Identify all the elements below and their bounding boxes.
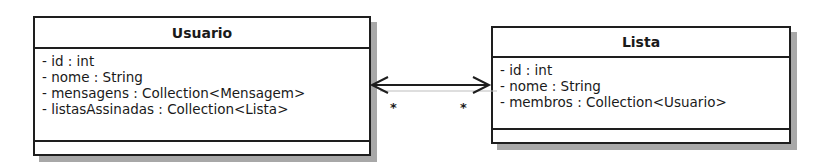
association-line[interactable] (0, 0, 823, 167)
multiplicity-usuario-end: * (390, 100, 397, 115)
multiplicity-lista-end: * (460, 100, 467, 115)
